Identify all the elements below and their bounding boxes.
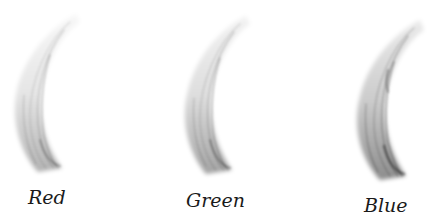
blue-channel-stroke [357,20,424,180]
channel-strokes [0,0,448,190]
green-channel-stroke [185,16,250,174]
red-label: Red [28,188,66,207]
red-channel-stroke [15,14,80,172]
blue-label: Blue [364,196,408,215]
green-label: Green [186,191,245,210]
